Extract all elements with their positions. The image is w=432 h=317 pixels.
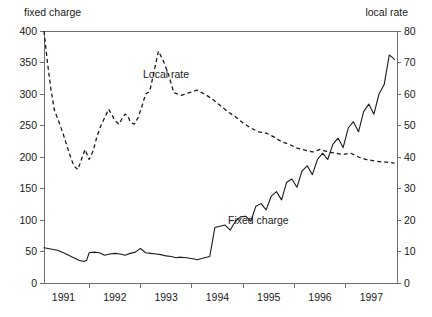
left-tick-label: 150 [19, 182, 37, 194]
right-tick-label: 80 [404, 25, 416, 37]
chart-container: fixed charge local rate 0501001502002503… [0, 0, 432, 317]
left-tick-label: 400 [19, 25, 37, 37]
right-tick-label: 20 [404, 214, 416, 226]
right-tick-label: 60 [404, 88, 416, 100]
dual-axis-line-chart: fixed charge local rate 0501001502002503… [0, 0, 432, 317]
series-annotation-local-rate: Local rate [143, 68, 189, 80]
right-tick-label: 0 [404, 277, 410, 289]
x-tick-label: 1991 [52, 291, 76, 303]
right-tick-label: 70 [404, 56, 416, 68]
series-annotation-fixed-charge: Fixed charge [228, 214, 289, 226]
x-tick-label: 1996 [308, 291, 332, 303]
left-axis-ticks: 050100150200250300350400 [19, 25, 44, 289]
x-tick-label: 1992 [103, 291, 127, 303]
left-tick-label: 100 [19, 214, 37, 226]
x-tick-label: 1997 [360, 291, 384, 303]
x-tick-label: 1995 [257, 291, 281, 303]
x-axis-ticks: 1991199219931994199519961997 [52, 283, 383, 303]
right-axis-title: local rate [365, 6, 408, 18]
right-axis-ticks: 01020304050607080 [397, 25, 416, 289]
left-tick-label: 200 [19, 151, 37, 163]
right-tick-label: 10 [404, 245, 416, 257]
series-line-local-rate [44, 31, 394, 170]
left-tick-label: 50 [25, 245, 37, 257]
x-tick-label: 1994 [206, 291, 230, 303]
left-tick-label: 350 [19, 56, 37, 68]
left-tick-label: 0 [31, 277, 37, 289]
left-axis-title: fixed charge [24, 6, 81, 18]
x-tick-label: 1993 [154, 291, 178, 303]
right-tick-label: 30 [404, 182, 416, 194]
right-tick-label: 50 [404, 119, 416, 131]
right-tick-label: 40 [404, 151, 416, 163]
series-line-fixed-charge [44, 55, 394, 262]
left-tick-label: 300 [19, 88, 37, 100]
left-tick-label: 250 [19, 119, 37, 131]
